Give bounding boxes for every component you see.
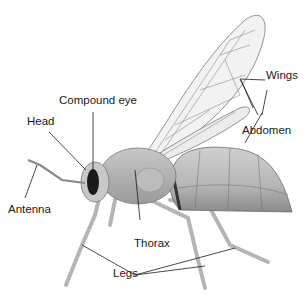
abdomen bbox=[170, 147, 292, 212]
label-legs: Legs bbox=[113, 268, 138, 280]
wasp-illustration bbox=[0, 0, 305, 294]
head bbox=[81, 162, 109, 202]
label-thorax: Thorax bbox=[134, 238, 170, 250]
label-head: Head bbox=[27, 116, 55, 128]
label-wings: Wings bbox=[266, 70, 298, 82]
thorax bbox=[100, 148, 176, 204]
antenna-shape bbox=[28, 160, 85, 183]
label-antenna: Antenna bbox=[8, 204, 51, 216]
wasp-diagram: Compound eye Head Antenna Wings Abdomen … bbox=[0, 0, 305, 294]
label-abdomen: Abdomen bbox=[242, 125, 291, 137]
label-compound-eye: Compound eye bbox=[59, 95, 137, 107]
